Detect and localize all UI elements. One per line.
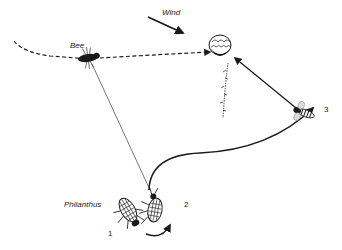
approach-path: [149, 108, 313, 190]
position-1-label: 1: [108, 229, 112, 238]
position-2-label: 2: [184, 200, 188, 209]
attack-arrow: [235, 58, 296, 108]
philanthus-position-3-icon: [290, 100, 318, 126]
flower-stem-icon: [220, 63, 228, 118]
wind-arrow-icon: [148, 17, 183, 33]
diagram-canvas: Wind Bee Philanthus 1 2 3: [0, 0, 342, 250]
philanthus-label: Philanthus: [64, 200, 101, 209]
bee-label: Bee: [70, 41, 84, 50]
flower-icon: [209, 35, 231, 56]
bee-flight-path: [14, 41, 210, 59]
sight-line: [92, 64, 150, 190]
turn-arrow: [146, 225, 170, 236]
position-3-label: 3: [324, 105, 328, 114]
philanthus-position-2-icon: [137, 186, 165, 227]
wind-label: Wind: [162, 8, 180, 17]
diagram-drawing: [0, 0, 342, 250]
